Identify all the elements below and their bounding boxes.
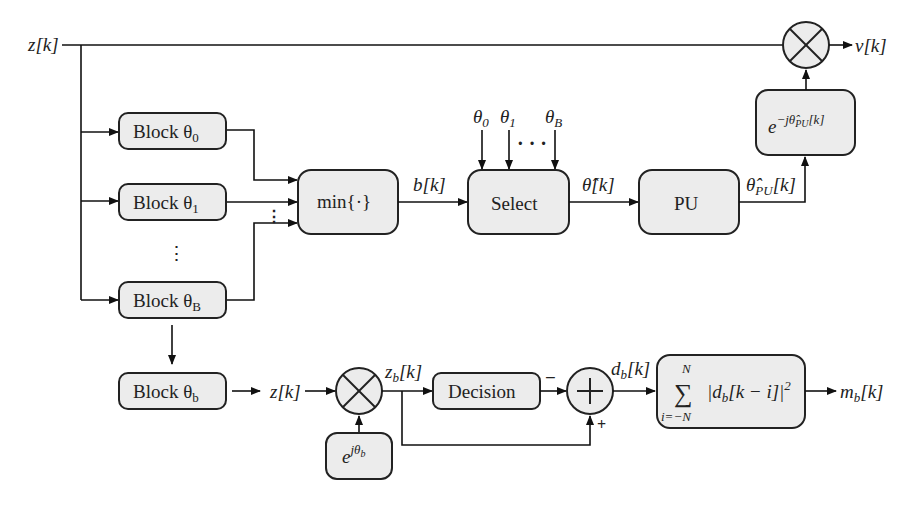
theta-hat-label: θ̂[k]	[582, 174, 615, 195]
input-signal-label: z[k]	[27, 34, 59, 55]
zb-signal-label: zb[k]	[384, 361, 422, 385]
rotation-block: ejθb	[326, 433, 392, 479]
block-thetaB: Block θB	[119, 282, 226, 318]
block-theta0: Block θ0	[119, 113, 226, 149]
detail-input-label: z[k]	[269, 381, 301, 402]
decision-block: Decision	[433, 373, 540, 409]
mb-signal-label: mb[k]	[840, 381, 883, 405]
svg-text:Block θb: Block θb	[133, 381, 199, 405]
svg-text:Select: Select	[491, 193, 538, 214]
output-signal-label: ν[k]	[855, 35, 887, 56]
select-block: Select	[468, 170, 569, 234]
svg-text:Block θ0: Block θ0	[133, 121, 199, 145]
diagram-canvas: z[k] Block θ0 Block θ1 ⋮ Block θB ⋮ min{…	[0, 0, 923, 507]
block-thetab-detail: Block θb	[119, 373, 226, 409]
minus-sign: −	[545, 367, 556, 388]
svg-text:|db[k − i]|2: |db[k − i]|2	[707, 378, 791, 405]
output-multiplier-icon	[783, 22, 829, 68]
plus-sign: +	[597, 416, 606, 433]
svg-text:min{·}: min{·}	[317, 191, 371, 212]
theta1-label: θ1	[500, 106, 516, 130]
svg-text:Decision: Decision	[448, 381, 516, 402]
metric-sum-block: N ∑ i=−N |db[k − i]|2	[657, 355, 805, 428]
theta0-label: θ0	[473, 106, 489, 130]
svg-text:N: N	[681, 361, 692, 376]
svg-text:PU: PU	[674, 193, 699, 214]
min-inputs-ellipsis: ⋮	[266, 208, 282, 225]
vertical-ellipsis: ⋮	[167, 243, 186, 264]
pu-block: PU	[639, 170, 739, 234]
derotation-block: e−jθ̂PU[k]	[756, 90, 855, 155]
theta-ellipsis: · · ·	[517, 132, 547, 154]
wire-block0-to-min	[227, 130, 297, 180]
theta-pu-label: θ̂PU[k]	[746, 174, 796, 198]
wire-blockB-to-min	[227, 223, 297, 300]
block-theta1: Block θ1	[119, 184, 226, 220]
adder-icon	[567, 368, 613, 414]
rotation-multiplier-icon	[336, 368, 382, 414]
db-signal-label: db[k]	[611, 358, 650, 382]
b-signal-label: b[k]	[413, 174, 446, 195]
svg-text:Block θ1: Block θ1	[133, 192, 199, 216]
svg-text:i=−N: i=−N	[661, 409, 692, 424]
thetaB-label: θB	[545, 106, 562, 130]
svg-text:Block θB: Block θB	[133, 290, 201, 314]
svg-text:∑: ∑	[674, 379, 693, 408]
min-block: min{·}	[298, 170, 398, 234]
